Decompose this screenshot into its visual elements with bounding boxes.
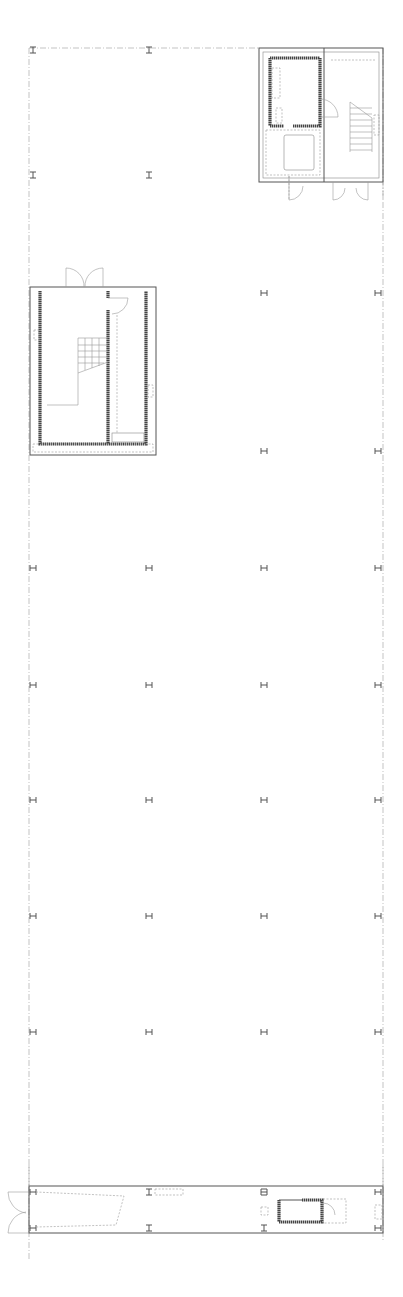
column-marker-icon bbox=[146, 565, 152, 571]
column-marker-icon bbox=[261, 1029, 267, 1035]
column-marker-icon bbox=[261, 1189, 267, 1195]
core-left bbox=[30, 268, 156, 455]
column-marker-icon bbox=[146, 682, 152, 688]
column-marker-icon bbox=[146, 1189, 152, 1195]
column-marker-icon bbox=[146, 1029, 152, 1035]
column-marker-icon bbox=[30, 682, 36, 688]
column-marker-icon bbox=[375, 1189, 381, 1195]
column-marker-icon bbox=[30, 1029, 36, 1035]
column-marker-icon bbox=[30, 1225, 36, 1231]
column-marker-icon bbox=[146, 172, 152, 178]
column-marker-icon bbox=[261, 913, 267, 919]
column-marker-icon bbox=[146, 1225, 152, 1231]
column-marker-icon bbox=[261, 290, 267, 296]
column-marker-icon bbox=[146, 913, 152, 919]
column-marker-icon bbox=[261, 682, 267, 688]
column-marker-icon bbox=[261, 448, 267, 454]
column-marker-icon bbox=[375, 448, 381, 454]
column-marker-icon bbox=[375, 913, 381, 919]
structural-grid bbox=[29, 48, 383, 1260]
column-marker-icon bbox=[375, 1029, 381, 1035]
column-marker-icon bbox=[261, 797, 267, 803]
column-marker-icon bbox=[261, 1225, 267, 1231]
column-marker-icon bbox=[375, 565, 381, 571]
column-marker-icon bbox=[30, 172, 36, 178]
floor-plan-drawing bbox=[0, 0, 403, 1297]
column-markers bbox=[30, 47, 381, 1231]
column-marker-icon bbox=[375, 797, 381, 803]
column-marker-icon bbox=[30, 913, 36, 919]
column-marker-icon bbox=[261, 565, 267, 571]
column-marker-icon bbox=[375, 1225, 381, 1231]
column-marker-icon bbox=[30, 565, 36, 571]
column-marker-icon bbox=[146, 797, 152, 803]
core-top-right bbox=[259, 48, 383, 200]
column-marker-icon bbox=[375, 682, 381, 688]
column-marker-icon bbox=[30, 797, 36, 803]
column-marker-icon bbox=[30, 1189, 36, 1195]
bottom-strip bbox=[8, 1186, 383, 1233]
column-marker-icon bbox=[375, 290, 381, 296]
